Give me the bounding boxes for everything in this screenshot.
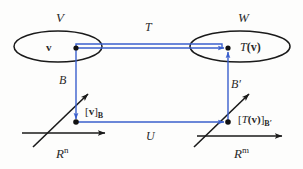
- label-space-W: W: [238, 11, 249, 24]
- label-space-V: V: [56, 11, 64, 24]
- coord-Tv-sub: B′: [264, 119, 272, 128]
- label-image-Tv: T(v): [240, 41, 261, 53]
- coord-v-sub: B: [98, 111, 103, 120]
- label-space-Rm: Rm: [234, 146, 249, 160]
- commutative-diagram: V W T U B B′ v T(v) [v]B [T(v)]B′ Rn Rm: [0, 0, 303, 169]
- coord-Tv-arg: (v): [248, 113, 261, 125]
- point-coord-Tv: [225, 119, 231, 125]
- label-map-U: U: [146, 130, 155, 142]
- point-Tv: [225, 45, 230, 50]
- label-coord-Tv: [T(v)]B′: [238, 114, 272, 128]
- label-space-Rm-base: R: [234, 146, 242, 161]
- label-coord-v: [v]B: [85, 106, 103, 120]
- point-coord-v: [73, 119, 79, 125]
- arrow-T: [76, 44, 224, 48]
- label-basis-B: B: [59, 74, 66, 86]
- label-space-Rn-exp: n: [64, 145, 69, 155]
- label-space-Rm-exp: m: [242, 145, 249, 155]
- label-space-Rn: Rn: [56, 146, 68, 160]
- label-vector-v: v: [46, 42, 52, 53]
- label-basis-B-prime: B′: [231, 78, 241, 90]
- label-image-Tv-fn: T: [240, 40, 247, 54]
- label-map-T: T: [145, 21, 152, 33]
- label-space-Rn-base: R: [56, 146, 64, 161]
- label-image-Tv-arg: (v): [247, 40, 261, 54]
- axes-rn: [22, 94, 105, 147]
- point-v: [73, 45, 78, 50]
- set-ellipse-V: [14, 31, 102, 62]
